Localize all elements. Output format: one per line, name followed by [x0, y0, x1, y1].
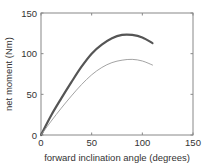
x-tick-label: 50: [86, 137, 97, 148]
x-axis-label: forward inclination angle (degrees): [44, 152, 190, 163]
x-tick-label: 100: [134, 137, 150, 148]
plot-box: [41, 13, 193, 135]
thin-series-line: [41, 59, 152, 135]
y-axis-label: net moment (Nm): [3, 37, 14, 111]
axis-ticks: 050100150050100150: [21, 8, 201, 149]
y-tick-label: 0: [32, 130, 37, 141]
thick-series-line: [41, 35, 152, 135]
y-tick-label: 150: [21, 8, 37, 19]
y-tick-label: 100: [21, 48, 37, 59]
line-chart: 050100150050100150 forward inclination a…: [0, 0, 210, 168]
x-tick-label: 0: [38, 137, 43, 148]
plot-frame: [41, 13, 193, 135]
data-series: [41, 35, 152, 135]
y-tick-label: 50: [26, 89, 37, 100]
x-tick-label: 150: [185, 137, 201, 148]
